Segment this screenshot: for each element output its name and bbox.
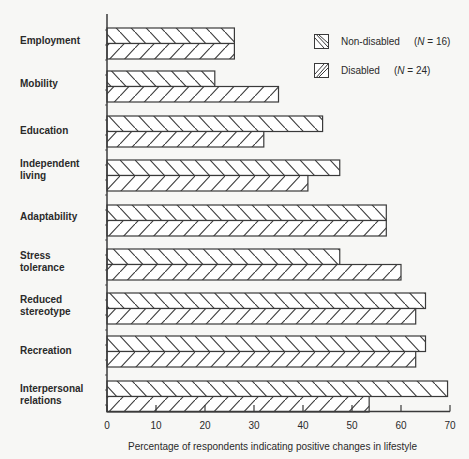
bars-group <box>107 28 448 412</box>
legend-label: Non-disabled <box>341 36 400 47</box>
category-label: Adaptability <box>20 211 77 223</box>
bar-interpersonal-relations-disabled <box>107 397 369 413</box>
x-tick-label: 30 <box>248 420 259 431</box>
bar-reduced-stereotype-non-disabled <box>107 293 426 309</box>
category-label: Interpersonalrelations <box>20 383 83 407</box>
x-tick-label: 70 <box>444 420 455 431</box>
category-label: Mobility <box>20 78 58 90</box>
x-tick-label: 40 <box>297 420 308 431</box>
category-label: Employment <box>20 35 80 47</box>
category-label: Independentliving <box>20 158 79 182</box>
slash-hatch-swatch-icon <box>314 63 329 78</box>
x-tick-label: 20 <box>199 420 210 431</box>
legend-item-disabled: Disabled (N = 24) <box>314 63 430 78</box>
bar-stress-tolerance-disabled <box>107 265 401 281</box>
legend-label: Disabled <box>341 65 380 76</box>
bar-recreation-non-disabled <box>107 336 426 352</box>
bar-adaptability-disabled <box>107 221 386 237</box>
x-axis-label: Percentage of respondents indicating pos… <box>128 441 417 452</box>
bar-independent-living-non-disabled <box>107 160 340 176</box>
bar-interpersonal-relations-non-disabled <box>107 381 448 397</box>
x-tick-label: 10 <box>150 420 161 431</box>
bar-employment-disabled <box>107 44 234 60</box>
bar-recreation-disabled <box>107 352 416 368</box>
bar-mobility-non-disabled <box>107 71 215 87</box>
bar-reduced-stereotype-disabled <box>107 309 416 325</box>
legend-n-count: (N = 24) <box>394 65 430 76</box>
bar-education-non-disabled <box>107 116 323 132</box>
x-tick-label: 0 <box>104 420 110 431</box>
bar-stress-tolerance-non-disabled <box>107 249 340 265</box>
bar-education-disabled <box>107 132 264 148</box>
legend-item-non-disabled: Non-disabled (N = 16) <box>314 34 450 49</box>
x-tick-label: 60 <box>395 420 406 431</box>
category-label: Stresstolerance <box>20 250 64 274</box>
bar-independent-living-disabled <box>107 176 308 192</box>
bar-mobility-disabled <box>107 87 279 103</box>
category-label: Recreation <box>20 345 72 357</box>
category-label: Reducedstereotype <box>20 294 71 318</box>
bar-employment-non-disabled <box>107 28 234 44</box>
category-label: Education <box>20 125 68 137</box>
backslash-hatch-swatch-icon <box>314 34 329 49</box>
x-tick-label: 50 <box>346 420 357 431</box>
legend-n-count: (N = 16) <box>414 36 450 47</box>
bar-adaptability-non-disabled <box>107 205 386 221</box>
